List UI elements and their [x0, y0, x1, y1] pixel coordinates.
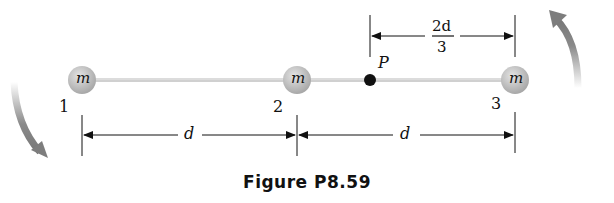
dimension-d1-label: d — [184, 124, 194, 143]
dimension-top-denominator: 3 — [437, 38, 447, 56]
rotation-arrow-left-icon — [14, 82, 48, 158]
rotation-arrow-right-icon — [549, 10, 578, 88]
mass-2-label: m — [291, 69, 305, 87]
dimension-top-numerator: 2d — [432, 17, 451, 35]
figure-caption: Figure P8.59 — [0, 172, 614, 192]
mass-3-index: 3 — [491, 94, 501, 113]
mass-3-label: m — [509, 69, 523, 87]
mass-1-index: 1 — [59, 97, 69, 116]
mass-1-label: m — [76, 69, 90, 87]
point-p-label: P — [378, 53, 389, 72]
bottom-dimension — [82, 112, 515, 156]
mass-2-index: 2 — [273, 97, 283, 116]
point-p — [364, 74, 376, 86]
dimension-d2-label: d — [400, 124, 410, 143]
